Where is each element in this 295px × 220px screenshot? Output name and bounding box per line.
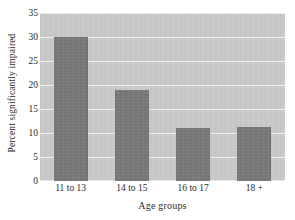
y-axis-tick-label: 15	[29, 104, 39, 114]
y-axis-tick-label: 35	[29, 8, 39, 18]
y-axis-tick-label: 10	[29, 128, 39, 138]
y-axis-tick-label: 20	[29, 80, 39, 90]
bar	[54, 37, 88, 181]
bar-chart: Percent significantly impaired 051015202…	[0, 0, 295, 220]
bar	[176, 128, 210, 181]
x-axis-tick-label: 14 to 15	[101, 183, 162, 193]
y-axis-tick-label: 30	[29, 32, 39, 42]
y-axis-tick-labels: 05101520253035	[16, 13, 38, 181]
plot-area	[40, 13, 285, 181]
x-axis-tick-label: 11 to 13	[40, 183, 101, 193]
x-axis-tick-label: 16 to 17	[163, 183, 224, 193]
y-axis-tick-label: 0	[33, 176, 38, 186]
y-axis-tick-label: 25	[29, 56, 39, 66]
x-axis-tick-label: 18 +	[224, 183, 285, 193]
y-axis-tick-label: 5	[33, 152, 38, 162]
x-axis-title: Age groups	[40, 200, 285, 211]
bar	[237, 127, 271, 181]
bars	[40, 13, 285, 181]
x-axis-tick-labels: 11 to 1314 to 1516 to 1718 +	[40, 183, 285, 199]
bar	[115, 90, 149, 181]
